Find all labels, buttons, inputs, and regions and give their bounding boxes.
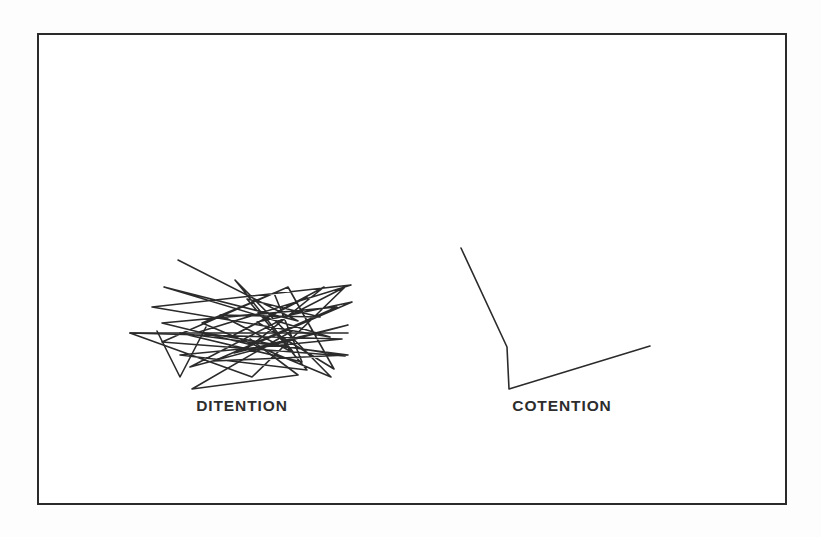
diagram-frame: DITENTION COTENTION bbox=[37, 33, 787, 505]
figure-ditention: DITENTION bbox=[102, 227, 382, 427]
cotention-label: COTENTION bbox=[432, 397, 692, 415]
page-root: DITENTION COTENTION bbox=[0, 0, 821, 537]
figure-cotention: COTENTION bbox=[432, 227, 692, 427]
cotention-polyline-path bbox=[461, 248, 650, 389]
ditention-scribble-path bbox=[130, 260, 352, 377]
ditention-label: DITENTION bbox=[102, 397, 382, 415]
